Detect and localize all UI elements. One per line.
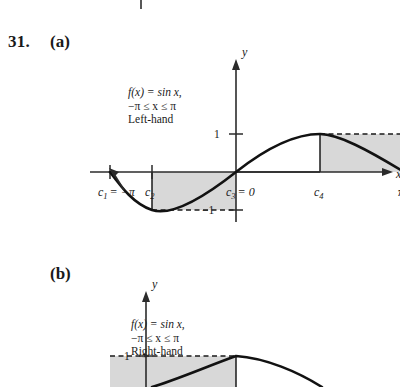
y-axis-label-b: y [151,277,158,291]
problem-number: 31. [8,32,30,52]
y-axis-arrowhead [232,59,240,70]
y-tick-neg1-label: −1 [202,204,214,216]
x-tick-c4-label: c4 [314,185,324,201]
textbook-page: 31. (a) (b) f(x) = sin x, −π ≤ x ≤ π Lef… [0,0,400,387]
x-axis-label: x [395,167,400,181]
y-axis-arrowhead-b [142,291,150,302]
x-tick-c3-label: c3= 0 [226,185,255,201]
x-tick-c1-label: c1= −π [98,185,136,201]
y-tick-1-label: 1 [214,128,220,140]
y-axis-label: y [241,45,248,59]
part-b-label: (b) [50,264,71,284]
figure-a-left-hand-riemann: y x 1 −1 c1= −π c2 c3= 0 c4 π [90,38,400,238]
part-a-label: (a) [50,32,70,52]
scan-artifact-tick [140,0,142,9]
y-tick-1-label-b: 1 [124,350,130,362]
shaded-rect-c4-pi [320,134,400,172]
shaded-rect-c2-c3 [152,172,236,210]
figure-b-right-hand-riemann: y 1 [90,280,400,387]
